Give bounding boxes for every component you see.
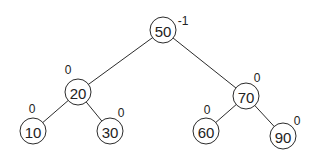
tree-diagram: 50 -1 20 0 70 0 10 0 30 0 60 0 90 0 [0,0,318,158]
edge-50-70 [163,30,246,96]
balance-factor: -1 [178,14,189,28]
node-value: 50 [155,23,172,40]
balance-factor: 0 [294,114,301,128]
balance-factor: 0 [118,106,125,120]
tree-node-30: 30 0 [97,106,125,144]
node-value: 60 [198,124,215,141]
tree-node-50: 50 -1 [150,14,189,43]
tree-node-10: 10 0 [20,102,46,144]
tree-node-20: 20 0 [65,63,91,105]
tree-node-90: 90 0 [270,114,301,149]
node-value: 90 [275,129,292,146]
node-value: 10 [25,124,42,141]
balance-factor: 0 [254,71,261,85]
node-value: 30 [102,124,119,141]
balance-factor: 0 [65,63,72,77]
node-value: 20 [70,85,87,102]
node-value: 70 [238,89,255,106]
balance-factor: 0 [204,103,211,117]
tree-node-60: 60 0 [193,103,219,144]
edge-50-20 [78,30,163,92]
tree-node-70: 70 0 [233,71,261,109]
balance-factor: 0 [29,102,36,116]
